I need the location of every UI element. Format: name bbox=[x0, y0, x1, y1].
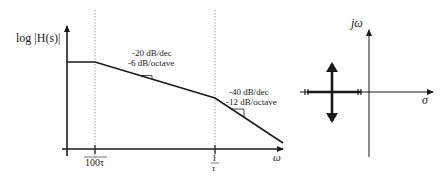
bode-plot: log |H(s)| ω 100τ 1 τ -20 dB/dec -6 dB/o… bbox=[16, 10, 283, 173]
slope-label-1a: -20 dB/dec bbox=[132, 48, 172, 58]
real-axis-label: σ bbox=[422, 93, 429, 107]
imag-axis-label: jω bbox=[349, 16, 363, 30]
diagram-canvas: log |H(s)| ω 100τ 1 τ -20 dB/dec -6 dB/o… bbox=[0, 0, 445, 180]
tick-label-100tau: 100τ bbox=[85, 157, 104, 168]
slope-label-1b: -6 dB/octave bbox=[128, 58, 174, 68]
tick-label-1-over-tau-num: 1 bbox=[212, 153, 217, 163]
slope-label-2b: -12 dB/octave bbox=[226, 97, 277, 107]
tick-label-1-over-tau-den: τ bbox=[212, 163, 216, 173]
bode-x-label: ω bbox=[273, 151, 281, 163]
slope-label-2a: -40 dB/dec bbox=[229, 87, 269, 97]
pole-zero-plot: jω σ bbox=[300, 16, 433, 157]
bode-y-label: log |H(s)| bbox=[16, 31, 60, 45]
